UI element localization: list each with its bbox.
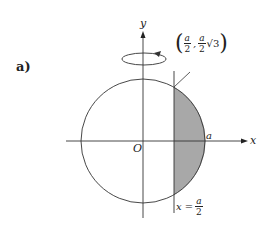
point-y-fraction: a 2 [198,33,205,54]
separator: , [193,38,196,49]
y-numerator: a [198,33,205,44]
y-axis-label: y [140,18,146,29]
line-denominator: 2 [196,207,202,217]
close-paren: ) [219,32,228,54]
y-axis-arrow-icon [141,31,146,38]
x-denominator: 2 [184,44,190,54]
point-x-fraction: a 2 [184,33,191,54]
radius-label: a [206,131,212,141]
line-label-prefix: x = [176,201,193,212]
line-label-fraction: a 2 [195,196,202,217]
leader-line [174,72,190,87]
point-label: ( a 2 , a 2 √3 ) [175,32,228,54]
x-axis-arrow-icon [241,139,248,144]
y-denominator: 2 [199,44,205,54]
open-paren: ( [175,32,184,54]
x-numerator: a [184,33,191,44]
line-numerator: a [195,196,202,207]
x-axis-label: x [250,135,256,146]
sqrt3: √3 [207,38,220,49]
origin-label: O [133,143,142,154]
part-label: a) [16,60,31,73]
line-label: x = a 2 [176,196,203,217]
